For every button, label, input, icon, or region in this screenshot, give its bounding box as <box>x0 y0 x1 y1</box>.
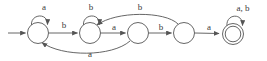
state-q2[interactable] <box>80 23 101 44</box>
state-q5-accepting[interactable] <box>223 24 244 45</box>
state-q3[interactable] <box>128 23 149 44</box>
edge-label-q5-q5: a, b <box>237 3 250 13</box>
edge-label-q4-q5: a <box>207 22 211 32</box>
state-q4[interactable] <box>174 23 195 44</box>
edge-label-q1-q2: b <box>62 20 67 30</box>
edge-label-q3-q1: a <box>88 49 92 59</box>
edge-label-q1-q1: a <box>42 2 46 12</box>
transition-q4-q2-b: b <box>97 2 178 25</box>
automaton-diagram: a b b a a b b <box>0 0 267 61</box>
transition-q5-q5-ab: a, b <box>227 3 250 26</box>
transition-q4-q5-a: a <box>195 22 220 33</box>
edge-label-q4-q2: b <box>138 2 143 12</box>
edge-label-q2-q2: b <box>89 2 94 12</box>
transition-q3-q4-b: b <box>149 22 172 33</box>
transition-q1-q2-b: b <box>49 20 78 33</box>
edge-label-q2-q3: a <box>112 22 116 32</box>
transition-q1-q1-a: a <box>31 2 47 25</box>
transition-q3-q1-a: a <box>42 41 130 59</box>
state-q1[interactable] <box>28 23 49 44</box>
transition-q2-q2-b: b <box>83 2 99 25</box>
edge-label-q3-q4: b <box>159 22 164 32</box>
transition-q2-q3-a: a <box>101 22 126 33</box>
fsm-canvas: a b b a a b b <box>0 0 267 61</box>
